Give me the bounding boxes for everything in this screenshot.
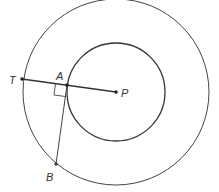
- point-P: [114, 90, 118, 94]
- label-B: B: [46, 171, 53, 183]
- point-B: [54, 162, 58, 166]
- label-P: P: [121, 87, 129, 99]
- segment-TP: [22, 79, 116, 92]
- label-A: A: [55, 70, 63, 82]
- concentric-circles-diagram: T A P B: [0, 0, 219, 192]
- right-angle-marker: [54, 84, 66, 97]
- label-T: T: [9, 74, 17, 86]
- point-T: [20, 77, 24, 81]
- point-A: [65, 83, 69, 87]
